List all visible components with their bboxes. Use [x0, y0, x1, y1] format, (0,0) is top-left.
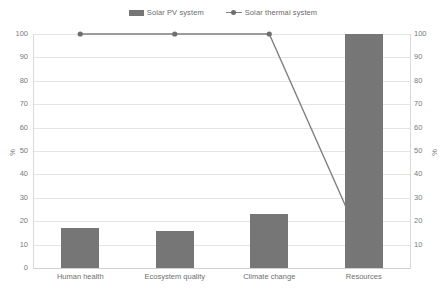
- y-axis-left-tick-label: 40: [4, 170, 28, 178]
- line-marker-icon: [226, 9, 242, 16]
- bar-climate-change: [250, 214, 288, 268]
- y-axis-right-line: [410, 34, 411, 268]
- y-axis-right-tick-label: 80: [414, 77, 438, 85]
- y-axis-right-title: %: [430, 147, 439, 159]
- chart-legend: Solar PV system Solar thermal system: [0, 8, 446, 17]
- y-axis-left-tick-label: 90: [4, 53, 28, 61]
- legend-label-solar-pv-system: Solar PV system: [147, 8, 204, 17]
- y-axis-left-line: [33, 34, 34, 268]
- y-axis-right-tick-label: 20: [414, 217, 438, 225]
- y-axis-right-tick-label: 40: [414, 170, 438, 178]
- y-axis-right-tick-label: 10: [414, 241, 438, 249]
- y-axis-right-tick-label: 70: [414, 100, 438, 108]
- y-axis-left-tick-label: 0: [4, 264, 28, 272]
- y-axis-left-tick-label: 20: [4, 217, 28, 225]
- plot-area: [33, 34, 411, 268]
- y-axis-left-tick-label: 10: [4, 241, 28, 249]
- bar-swatch-icon: [129, 10, 144, 16]
- x-axis-category-labels: Human healthEcosystem qualityClimate cha…: [33, 272, 411, 286]
- chart-container: Solar PV system Solar thermal system 100…: [0, 0, 446, 294]
- y-axis-right-tick-label: 30: [414, 194, 438, 202]
- x-axis-label-resources: Resources: [346, 272, 382, 281]
- y-axis-left-tick-label: 100: [4, 30, 28, 38]
- y-axis-left-tick-label: 30: [4, 194, 28, 202]
- x-axis-label-ecosystem-quality: Ecosystem quality: [145, 272, 205, 281]
- gridline: [33, 268, 411, 269]
- y-axis-right-tick-label: 60: [414, 124, 438, 132]
- bar-resources: [345, 34, 383, 268]
- x-axis-label-climate-change: Climate change: [243, 272, 295, 281]
- legend-item-solar-pv-system[interactable]: Solar PV system: [129, 8, 204, 17]
- legend-label-solar-thermal-system: Solar thermal system: [245, 8, 317, 17]
- legend-item-solar-thermal-system[interactable]: Solar thermal system: [226, 8, 317, 17]
- y-axis-left-title: %: [8, 147, 17, 159]
- x-axis-label-human-health: Human health: [57, 272, 104, 281]
- y-axis-left-tick-label: 60: [4, 124, 28, 132]
- y-axis-left-tick-label: 80: [4, 77, 28, 85]
- y-axis-right-tick-label: 100: [414, 30, 438, 38]
- y-axis-left-tick-label: 70: [4, 100, 28, 108]
- bar-ecosystem-quality: [156, 231, 194, 268]
- bar-human-health: [61, 228, 99, 268]
- y-axis-right-tick-label: 90: [414, 53, 438, 61]
